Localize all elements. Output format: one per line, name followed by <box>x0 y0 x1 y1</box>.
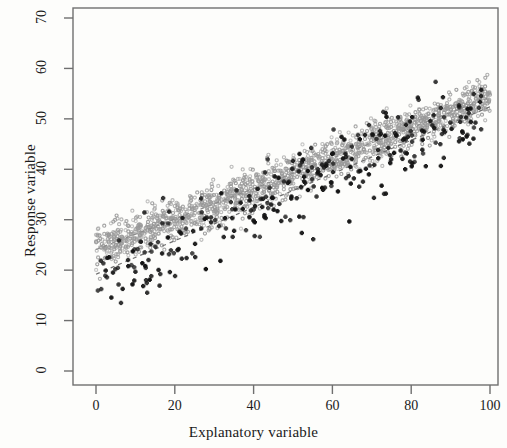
y-tick-label: 40 <box>34 148 50 188</box>
x-tick-label: 100 <box>470 398 507 414</box>
x-tick-label: 0 <box>76 398 116 414</box>
y-tick-label: 0 <box>34 350 50 390</box>
x-tick-label: 60 <box>312 398 352 414</box>
y-tick-label: 70 <box>34 0 50 37</box>
y-tick-label: 60 <box>34 47 50 87</box>
plot-canvas <box>0 0 507 448</box>
x-axis-title: Explanatory variable <box>0 424 507 441</box>
y-tick-label: 30 <box>34 199 50 239</box>
y-tick-label: 50 <box>34 98 50 138</box>
x-tick-label: 20 <box>155 398 195 414</box>
x-tick-label: 80 <box>391 398 431 414</box>
scatter-plot-figure: Explanatory variable Response variable 0… <box>0 0 507 448</box>
y-tick-label: 10 <box>34 300 50 340</box>
x-tick-label: 40 <box>234 398 274 414</box>
y-tick-label: 20 <box>34 249 50 289</box>
